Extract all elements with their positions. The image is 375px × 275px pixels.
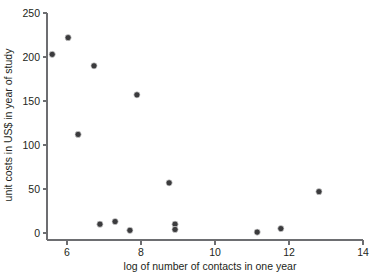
- y-tick-label: 150: [22, 95, 40, 107]
- data-point: [166, 180, 172, 186]
- data-point: [134, 92, 140, 98]
- data-point: [75, 131, 81, 137]
- plot-canvas: 050100150200250 68101214 log of number o…: [0, 0, 375, 275]
- data-point: [91, 63, 97, 69]
- y-axis-title: unit costs in US$ in year of study: [2, 48, 14, 202]
- data-point: [316, 189, 322, 195]
- x-tick-label: 14: [357, 246, 369, 258]
- data-point: [127, 227, 133, 233]
- y-tick-label: 200: [22, 51, 40, 63]
- data-point: [112, 218, 118, 224]
- x-tick-label: 8: [138, 246, 144, 258]
- data-points-layer: [49, 35, 322, 236]
- y-tick-label: 0: [34, 227, 40, 239]
- data-point: [97, 221, 103, 227]
- data-point: [49, 51, 55, 57]
- x-tick-label: 10: [209, 246, 221, 258]
- data-point: [65, 35, 71, 41]
- data-point: [172, 226, 178, 232]
- scatter-plot-figure: 050100150200250 68101214 log of number o…: [0, 0, 375, 275]
- data-point: [278, 226, 284, 232]
- x-tick-label: 12: [283, 246, 295, 258]
- y-tick-label: 250: [22, 7, 40, 19]
- y-tick-label: 50: [28, 183, 40, 195]
- y-tick-label: 100: [22, 139, 40, 151]
- x-axis-title: log of number of contacts in one year: [124, 260, 297, 272]
- y-axis: 050100150200250: [22, 7, 47, 240]
- data-point: [254, 229, 260, 235]
- x-axis: 68101214: [47, 240, 369, 258]
- x-tick-label: 6: [64, 246, 70, 258]
